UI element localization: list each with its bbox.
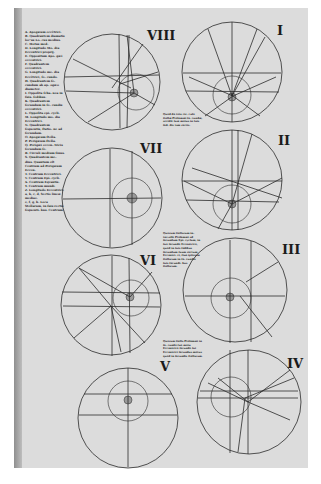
figure-VII: VII bbox=[62, 141, 162, 248]
figure-numeral: VIII bbox=[146, 28, 175, 43]
figure-numeral: III bbox=[282, 242, 300, 257]
figure-numeral: VI bbox=[139, 253, 156, 268]
figure-V: V bbox=[78, 359, 178, 468]
figure-numeral: II bbox=[278, 133, 290, 148]
figure-numeral: V bbox=[159, 359, 171, 374]
figure-numeral: IV bbox=[287, 356, 304, 371]
diagram-plates: VIII I VII bbox=[0, 0, 321, 484]
figure-VI: VI bbox=[61, 253, 161, 356]
figure-IV: IV bbox=[197, 350, 304, 454]
figure-II: II bbox=[182, 130, 290, 230]
figure-numeral: VII bbox=[139, 141, 162, 156]
figure-numeral: I bbox=[277, 23, 283, 38]
figure-I: I bbox=[182, 22, 283, 122]
figure-III: III bbox=[183, 238, 300, 343]
figure-VIII: VIII bbox=[64, 28, 175, 130]
